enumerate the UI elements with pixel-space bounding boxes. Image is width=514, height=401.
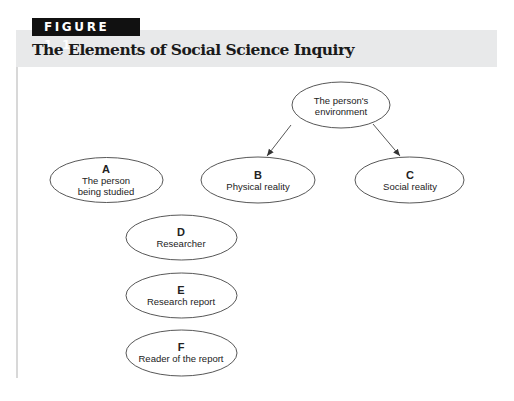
node-d-letter: D (156, 226, 205, 238)
node-f-label: F Reader of the report (138, 341, 223, 364)
node-b-letter: B (226, 169, 289, 181)
figure-title: The Elements of Social Science Inquiry (32, 40, 354, 59)
node-a-label: A The person being studied (78, 163, 135, 197)
node-f-line1: Reader of the report (138, 353, 223, 364)
node-f-letter: F (138, 341, 223, 353)
diagram-canvas (0, 0, 514, 401)
node-environment-line2: environment (314, 106, 369, 117)
node-a-line1: The person (78, 175, 135, 186)
arrow-environment-to-b (267, 125, 291, 156)
node-environment-line1: The person's (314, 95, 369, 106)
node-c-letter: C (383, 169, 437, 181)
arrow-environment-to-c (373, 124, 400, 156)
node-d-line1: Researcher (156, 238, 205, 249)
node-c-line1: Social reality (383, 181, 437, 192)
node-d-label: D Researcher (156, 226, 205, 249)
node-e-label: E Research report (147, 284, 215, 307)
node-e-line1: Research report (147, 296, 215, 307)
figure-number-label: FIGURE 1.1 (32, 18, 140, 36)
node-a-line2: being studied (78, 186, 135, 197)
node-e-letter: E (147, 284, 215, 296)
node-b-line1: Physical reality (226, 181, 289, 192)
node-a-letter: A (78, 163, 135, 175)
node-b-label: B Physical reality (226, 169, 289, 192)
node-environment-label: The person's environment (314, 95, 369, 117)
node-c-label: C Social reality (383, 169, 437, 192)
